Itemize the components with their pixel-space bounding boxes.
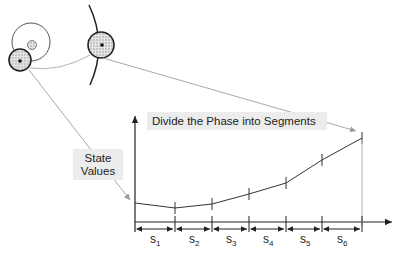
plot-axes (135, 116, 392, 232)
orbit-cluster-icon (9, 23, 50, 71)
segment-label-1: s1 (150, 232, 160, 248)
state-label-line2: Values (73, 165, 123, 178)
state-values-label: State Values (73, 149, 123, 180)
state-arrow (29, 70, 130, 200)
state-label-line1: State (73, 152, 123, 165)
segment-label-5: s5 (300, 232, 310, 248)
curve-ticks (175, 132, 362, 214)
phase-label-text: Divide the Phase into Segments (152, 115, 316, 127)
segment-label-3: s3 (226, 232, 236, 248)
segment-label-6: s6 (337, 232, 347, 248)
segment-boundaries (175, 216, 362, 232)
phase-segments-label: Divide the Phase into Segments (147, 112, 327, 130)
segment-label-2: s2 (189, 232, 199, 248)
phase-circle-icon (88, 5, 114, 85)
segment-label-4: s4 (263, 232, 273, 248)
